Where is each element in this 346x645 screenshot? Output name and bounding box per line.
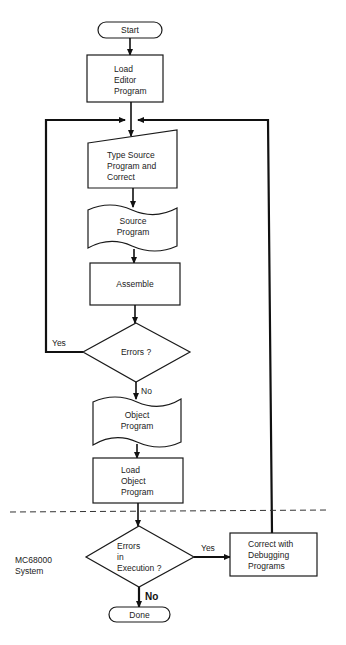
source-program-line-1: Source bbox=[120, 216, 147, 226]
type-source-line-1: Type Source bbox=[107, 150, 155, 160]
type-source-manual-input: Type Source Program and Correct bbox=[88, 130, 177, 188]
object-program-tape: Object Program bbox=[93, 397, 181, 447]
assemble-box: Assemble bbox=[90, 263, 180, 305]
object-program-line-2: Program bbox=[121, 421, 154, 431]
errors-execution-line-3: Execution ? bbox=[117, 563, 162, 573]
errors-yes-label: Yes bbox=[52, 338, 66, 348]
system-boundary-divider bbox=[10, 510, 330, 512]
execution-yes-label: Yes bbox=[201, 543, 215, 553]
correct-debug-line-1: Correct with bbox=[248, 539, 294, 549]
errors-label: Errors ? bbox=[121, 347, 152, 357]
errors-execution-line-1: Errors bbox=[117, 541, 140, 551]
load-editor-line-3: Program bbox=[114, 86, 147, 96]
region-label-line-1: MC68000 bbox=[15, 555, 52, 565]
correct-debugging-box: Correct with Debugging Programs bbox=[230, 533, 317, 576]
source-program-line-2: Program bbox=[117, 227, 150, 237]
errors-execution-decision: Errors in Execution ? bbox=[86, 526, 194, 587]
load-object-line-3: Program bbox=[121, 487, 154, 497]
done-terminal: Done bbox=[109, 607, 170, 622]
start-terminal: Start bbox=[98, 22, 162, 38]
correct-debug-line-3: Programs bbox=[248, 561, 285, 571]
start-label: Start bbox=[121, 25, 140, 35]
flowchart-canvas: Start Load Editor Program Type Source Pr… bbox=[0, 0, 346, 645]
done-label: Done bbox=[129, 610, 150, 620]
correct-debug-line-2: Debugging bbox=[248, 550, 289, 560]
load-object-line-1: Load bbox=[121, 465, 140, 475]
load-editor-line-1: Load bbox=[114, 64, 133, 74]
execution-no-label: No bbox=[145, 591, 158, 602]
errors-execution-line-2: in bbox=[117, 552, 124, 562]
load-object-box: Load Object Program bbox=[93, 458, 183, 503]
load-editor-box: Load Editor Program bbox=[87, 55, 163, 102]
source-program-tape: Source Program bbox=[88, 205, 177, 251]
assemble-label: Assemble bbox=[116, 279, 154, 289]
type-source-line-3: Correct bbox=[107, 172, 136, 182]
errors-decision: Errors ? bbox=[83, 323, 190, 382]
object-program-line-1: Object bbox=[125, 410, 150, 420]
region-label-line-2: System bbox=[15, 566, 43, 576]
type-source-line-2: Program and bbox=[107, 161, 156, 171]
load-object-line-2: Object bbox=[121, 476, 146, 486]
errors-no-label: No bbox=[141, 386, 152, 396]
load-editor-line-2: Editor bbox=[114, 75, 136, 85]
